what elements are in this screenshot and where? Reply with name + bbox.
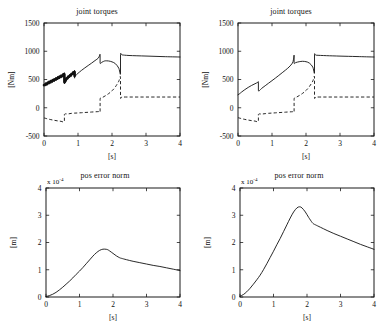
x-tick-label: 2 xyxy=(110,139,114,148)
x-tick-label: 1 xyxy=(270,139,274,148)
y-tick-label: 3 xyxy=(232,211,236,220)
y-tick-label: 3 xyxy=(38,211,42,220)
x-tick-label: 2 xyxy=(305,300,309,309)
y-axis-multiplier: x 10-4 xyxy=(47,177,64,186)
x-tick-label: 1 xyxy=(78,300,82,309)
panel-torques-right: joint torques 01234-500050010001500[s][N… xyxy=(194,0,388,166)
axes-poserr-right: 0123401234[s][m]x 10-4 xyxy=(194,166,388,331)
y-tick-label: 0 xyxy=(232,293,236,302)
x-tick-label: 3 xyxy=(338,139,342,148)
y-tick-label: 1000 xyxy=(219,47,234,56)
y-tick-label: 500 xyxy=(28,75,40,84)
x-tick-label: 2 xyxy=(304,139,308,148)
x-tick-label: 0 xyxy=(238,300,242,309)
y-tick-label: 1 xyxy=(38,266,42,275)
y-axis-label: [m] xyxy=(9,237,18,248)
plot-frame xyxy=(240,188,374,297)
x-tick-label: 0 xyxy=(44,300,48,309)
y-tick-label: 1000 xyxy=(25,47,40,56)
axes-poserr-left: 0123401234[s][m]x 10-4 xyxy=(0,166,194,331)
x-tick-label: 4 xyxy=(372,139,376,148)
series-solid xyxy=(46,249,180,296)
panel-poserr-left: pos error norm 0123401234[s][m]x 10-4 xyxy=(0,166,194,331)
axes-torques-left: 01234-500050010001500[s][Nm] xyxy=(0,0,194,166)
y-tick-label: 1 xyxy=(232,266,236,275)
y-tick-label: 0 xyxy=(38,293,42,302)
y-axis-label: [Nm] xyxy=(7,71,16,87)
y-tick-label: 4 xyxy=(38,184,42,193)
y-tick-label: 0 xyxy=(230,104,234,113)
y-tick-label: 0 xyxy=(36,104,40,113)
y-tick-label: 500 xyxy=(222,75,234,84)
y-tick-label: -500 xyxy=(220,132,234,141)
x-tick-label: 1 xyxy=(76,139,80,148)
x-tick-label: 3 xyxy=(339,300,343,309)
x-tick-label: 3 xyxy=(144,139,148,148)
panel-torques-left: joint torques 01234-500050010001500[s][N… xyxy=(0,0,194,166)
y-axis-label: [Nm] xyxy=(201,71,210,87)
panel-poserr-right: pos error norm 0123401234[s][m]x 10-4 xyxy=(194,166,388,331)
x-tick-label: 2 xyxy=(111,300,115,309)
x-axis-label: [s] xyxy=(303,313,311,322)
x-axis-label: [s] xyxy=(109,313,117,322)
y-tick-label: 2 xyxy=(38,238,42,247)
x-tick-label: 4 xyxy=(178,300,182,309)
y-tick-label: -500 xyxy=(26,132,40,141)
x-tick-label: 3 xyxy=(145,300,149,309)
y-tick-label: 1500 xyxy=(25,19,40,28)
x-tick-label: 4 xyxy=(178,139,182,148)
axes-torques-right: 01234-500050010001500[s][Nm] xyxy=(194,0,388,166)
series-solid xyxy=(240,207,374,296)
figure-canvas: joint torques 01234-500050010001500[s][N… xyxy=(0,0,388,331)
x-tick-label: 1 xyxy=(272,300,276,309)
series-solid xyxy=(238,54,374,95)
x-axis-label: [s] xyxy=(108,152,116,161)
x-tick-label: 0 xyxy=(236,139,240,148)
plot-frame xyxy=(46,188,180,297)
y-tick-label: 1500 xyxy=(219,19,234,28)
x-tick-label: 0 xyxy=(42,139,46,148)
y-axis-label: [m] xyxy=(203,237,212,248)
y-tick-label: 4 xyxy=(232,184,236,193)
x-axis-label: [s] xyxy=(302,152,310,161)
y-axis-multiplier: x 10-4 xyxy=(241,177,258,186)
x-tick-label: 4 xyxy=(372,300,376,309)
y-tick-label: 2 xyxy=(232,238,236,247)
